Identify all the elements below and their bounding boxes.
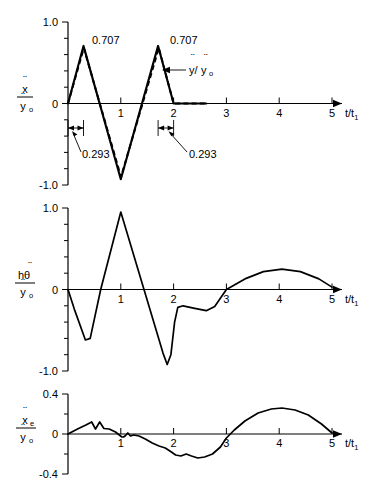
top-annotation-0707-left: 0.707 bbox=[92, 34, 120, 46]
top-annotation-0707-right: 0.707 bbox=[170, 34, 198, 46]
svg-text:y: y bbox=[20, 100, 26, 112]
bottom-x-axis-label: t/t1 bbox=[345, 437, 358, 452]
bottom-ytick-label-upper: 0.4 bbox=[43, 388, 58, 400]
svg-text:y: y bbox=[20, 431, 26, 443]
bottom-ytick-label-lower: -0.4 bbox=[39, 468, 58, 480]
middle-xtick-label-2: 2 bbox=[171, 293, 177, 305]
middle-xtick-label-5: 5 bbox=[329, 293, 335, 305]
chart-panel-top: 1.0 0 -1.0 1 2 3 4 5 t/t1 ¨ x ¨ y o 0.70… bbox=[0, 0, 375, 200]
svg-text:y: y bbox=[20, 286, 26, 298]
figure-container: 1.0 0 -1.0 1 2 3 4 5 t/t1 ¨ x ¨ y o 0.70… bbox=[0, 0, 375, 488]
top-xtick-label-4: 4 bbox=[276, 107, 282, 119]
top-ytick-label-lower: -1.0 bbox=[39, 179, 58, 191]
bottom-curve bbox=[68, 408, 332, 458]
middle-xtick-label-4: 4 bbox=[276, 293, 282, 305]
middle-ytick-label-lower: -1.0 bbox=[39, 365, 58, 377]
top-xtick-label-3: 3 bbox=[223, 107, 229, 119]
middle-x-axis-label: t/t1 bbox=[345, 293, 358, 308]
top-xtick-label-5: 5 bbox=[329, 107, 335, 119]
chart-panel-bottom: 0.4 0 -0.4 1 2 3 4 5 t/t1 ¨ x e ¨ y o bbox=[0, 382, 375, 488]
top-dimension-marker-right: 0.293 bbox=[158, 120, 216, 160]
svg-text:o: o bbox=[29, 291, 33, 300]
top-y-axis-label: ¨ x ¨ y o bbox=[17, 74, 33, 114]
bottom-xtick-label-4: 4 bbox=[276, 437, 282, 449]
middle-xtick-label-3: 3 bbox=[223, 293, 229, 305]
middle-curve bbox=[68, 212, 332, 365]
chart-panel-middle: 1.0 0 -1.0 1 2 3 4 5 t/t1 ¨ hθ ¨ y o bbox=[0, 196, 375, 386]
top-annotation-ydd-ratio: ¨ y/ ¨ y o bbox=[162, 52, 213, 78]
svg-text:¨: ¨ bbox=[191, 52, 195, 64]
svg-text:y/: y/ bbox=[189, 64, 199, 76]
middle-ytick-label-zero: 0 bbox=[52, 284, 58, 296]
svg-text:o: o bbox=[29, 436, 33, 445]
bottom-xtick-label-2: 2 bbox=[171, 437, 177, 449]
top-x-axis-label: t/t1 bbox=[345, 107, 358, 122]
svg-text:o: o bbox=[29, 105, 33, 114]
svg-text:y: y bbox=[201, 64, 207, 76]
bottom-ytick-label-zero: 0 bbox=[52, 428, 58, 440]
middle-ytick-label-upper: 1.0 bbox=[43, 202, 58, 214]
top-dimension-marker-left: 0.293 bbox=[68, 120, 110, 160]
middle-y-axis-label: ¨ hθ ¨ y o bbox=[15, 260, 35, 300]
svg-text:e: e bbox=[30, 419, 34, 428]
svg-text:o: o bbox=[209, 69, 213, 78]
bottom-y-axis-label: ¨ x e ¨ y o bbox=[16, 405, 36, 445]
top-xtick-label-2: 2 bbox=[171, 107, 177, 119]
top-dimension-label-left: 0.293 bbox=[82, 148, 110, 160]
middle-xtick-label-1: 1 bbox=[118, 293, 124, 305]
top-ytick-label-zero: 0 bbox=[52, 98, 58, 110]
svg-text:¨: ¨ bbox=[204, 52, 208, 64]
top-ytick-label-upper: 1.0 bbox=[43, 16, 58, 28]
bottom-xtick-label-5: 5 bbox=[329, 437, 335, 449]
top-xtick-label-1: 1 bbox=[118, 107, 124, 119]
top-dimension-label-right: 0.293 bbox=[189, 148, 217, 160]
bottom-xtick-label-1: 1 bbox=[118, 437, 124, 449]
